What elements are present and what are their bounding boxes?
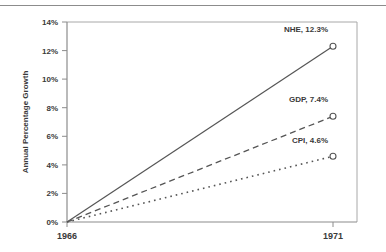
y-tick-label-4: 4% (46, 161, 58, 170)
y-tick-label-6: 6% (46, 132, 58, 141)
y-tick-label-0: 0% (46, 218, 58, 227)
plot-frame (67, 22, 357, 222)
x-tick-label-1971: 1971 (323, 231, 343, 241)
series-gdp-marker (330, 113, 336, 119)
y-axis-title: Annual Percentage Growth (21, 71, 30, 174)
chart-figure: 14% 12% 10% 8% 6% 4% 2% 0% Annual Percen… (0, 0, 386, 252)
y-axis-ticks (62, 22, 67, 222)
series-cpi-label: CPI, 4.6% (292, 136, 328, 145)
series-nhe-label: NHE, 12.3% (284, 25, 328, 34)
series-nhe: NHE, 12.3% (67, 25, 336, 222)
x-axis-tick-labels: 1966 1971 (57, 231, 343, 241)
x-tick-label-1966: 1966 (57, 231, 77, 241)
y-tick-label-8: 8% (46, 104, 58, 113)
y-tick-label-10: 10% (42, 75, 58, 84)
series-nhe-line (67, 46, 333, 222)
line-chart: 14% 12% 10% 8% 6% 4% 2% 0% Annual Percen… (0, 0, 386, 252)
series-gdp: GDP, 7.4% (67, 95, 336, 222)
y-axis-tick-labels: 14% 12% 10% 8% 6% 4% 2% 0% (42, 18, 58, 227)
y-tick-label-2: 2% (46, 189, 58, 198)
y-tick-label-12: 12% (42, 47, 58, 56)
x-axis-ticks (67, 222, 333, 227)
y-tick-label-14: 14% (42, 18, 58, 27)
series-cpi-line (67, 156, 333, 222)
series-gdp-label: GDP, 7.4% (289, 95, 328, 104)
series-cpi-marker (330, 153, 336, 159)
series-gdp-line (67, 116, 333, 222)
series-nhe-marker (330, 43, 336, 49)
series-cpi: CPI, 4.6% (67, 136, 336, 222)
